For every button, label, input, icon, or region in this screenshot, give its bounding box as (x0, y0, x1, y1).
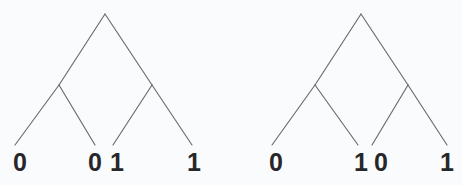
left-tree-edge-leaf-2 (59, 85, 95, 145)
right-tree-edge-leaf-4 (408, 85, 447, 145)
right-tree-leaf-4-label: 1 (434, 150, 460, 175)
right-tree-leaf-3-label: 0 (368, 150, 394, 175)
right-tree-root-left-edge (315, 14, 361, 85)
left-tree-edge-leaf-4 (152, 85, 192, 145)
right-tree-edge-leaf-2 (315, 85, 358, 145)
left-tree-root-right-edge (105, 14, 152, 85)
edges-group (15, 14, 447, 145)
left-tree-edge-leaf-1 (15, 85, 59, 145)
left-tree-root-left-edge (59, 14, 105, 85)
binary-tree-figure: 0 0 1 1 0 1 0 1 (0, 0, 462, 185)
left-tree-leaf-1-label: 0 (7, 150, 33, 175)
right-tree-leaf-1-label: 0 (263, 150, 289, 175)
right-tree-edge-leaf-3 (372, 85, 408, 145)
left-tree-leaf-3-label: 1 (104, 150, 130, 175)
left-tree-leaf-4-label: 1 (181, 150, 207, 175)
right-tree-edge-leaf-1 (272, 85, 315, 145)
right-tree-root-right-edge (361, 14, 408, 85)
left-tree-edge-leaf-3 (113, 85, 152, 145)
